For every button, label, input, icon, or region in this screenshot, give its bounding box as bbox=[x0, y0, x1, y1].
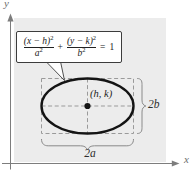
fraction-x-term: (x − h)2 a2 bbox=[24, 36, 54, 58]
exponent: 2 bbox=[82, 45, 85, 52]
ellipse-figure: y x (h, k) 2a 2b (x − h)2 a2 + (y − k)2 … bbox=[0, 0, 195, 180]
height-label-2b: 2b bbox=[148, 98, 160, 110]
fraction-y-term: (y − k)2 b2 bbox=[67, 36, 96, 58]
equation-callout: (x − h)2 a2 + (y − k)2 b2 = 1 bbox=[16, 31, 122, 63]
exponent: 2 bbox=[50, 34, 53, 41]
fraction-y-denominator: b2 bbox=[67, 47, 96, 59]
x-axis-label: x bbox=[184, 153, 189, 165]
x-axis-arrow-icon bbox=[172, 160, 180, 166]
center-label: (h, k) bbox=[90, 88, 112, 99]
exponent: 2 bbox=[93, 34, 96, 41]
fraction-x-denominator: a2 bbox=[24, 47, 54, 59]
center-point bbox=[84, 103, 90, 109]
plus-operator: + bbox=[57, 42, 64, 52]
equals-sign: = bbox=[99, 42, 106, 52]
y-axis-label: y bbox=[4, 0, 9, 9]
width-label-2a: 2a bbox=[76, 147, 104, 159]
y-axis-arrow-icon bbox=[7, 14, 13, 22]
equation-rhs: 1 bbox=[109, 42, 114, 52]
exponent: 2 bbox=[39, 45, 42, 52]
